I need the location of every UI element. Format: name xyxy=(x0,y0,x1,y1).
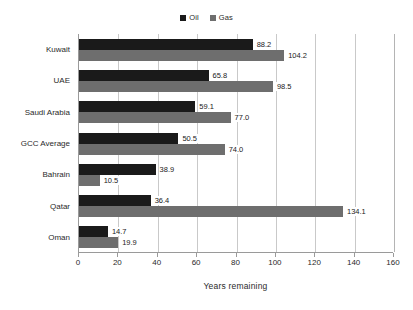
legend-item-oil[interactable]: Oil xyxy=(180,14,198,22)
bar-group: 50.574.0 xyxy=(79,133,393,155)
bar-value-label: 19.9 xyxy=(121,238,138,247)
bar-chart: OilGas KuwaitUAESaudi ArabiaGCC AverageB… xyxy=(0,0,413,310)
tick-label: 0 xyxy=(76,258,80,267)
bar-value-label: 14.7 xyxy=(111,227,128,236)
bar-group: 88.2104.2 xyxy=(79,39,393,61)
tick-mark xyxy=(393,253,394,257)
bar-gas-kuwait[interactable] xyxy=(79,50,284,61)
bar-oil-qatar[interactable] xyxy=(79,195,151,206)
tick-label: 80 xyxy=(231,258,240,267)
bar-value-label: 77.0 xyxy=(234,113,251,122)
bar-value-label: 59.1 xyxy=(198,102,215,111)
tick-label: 60 xyxy=(192,258,201,267)
bar-oil-saudi-arabia[interactable] xyxy=(79,101,195,112)
bar-oil-uae[interactable] xyxy=(79,70,209,81)
bar-gas-saudi-arabia[interactable] xyxy=(79,112,231,123)
legend-swatch-gas-icon xyxy=(210,15,216,21)
tick-label: 100 xyxy=(268,258,281,267)
x-axis-title: Years remaining xyxy=(78,281,393,291)
tick-mark xyxy=(314,253,315,257)
tick-mark xyxy=(196,253,197,257)
bar-value-label: 10.5 xyxy=(103,176,120,185)
bar-group: 65.898.5 xyxy=(79,70,393,92)
bar-value-label: 38.9 xyxy=(159,165,176,174)
bar-gas-oman[interactable] xyxy=(79,237,118,248)
bar-group: 14.719.9 xyxy=(79,226,393,248)
chart-legend: OilGas xyxy=(0,14,413,22)
bar-group: 38.910.5 xyxy=(79,164,393,186)
value-axis-ticks: 020406080100120140160 xyxy=(78,253,393,269)
bar-groups: 88.2104.265.898.559.177.050.574.038.910.… xyxy=(79,34,393,252)
category-label-gcc-average: GCC Average xyxy=(21,139,70,148)
bar-gas-qatar[interactable] xyxy=(79,206,343,217)
category-label-uae: UAE xyxy=(54,76,70,85)
bar-value-label: 88.2 xyxy=(256,40,273,49)
legend-label: Gas xyxy=(219,14,233,22)
category-label-bahrain: Bahrain xyxy=(42,170,70,179)
tick-mark xyxy=(157,253,158,257)
tick-label: 120 xyxy=(308,258,321,267)
bar-oil-bahrain[interactable] xyxy=(79,164,156,175)
category-label-kuwait: Kuwait xyxy=(46,45,70,54)
bar-oil-gcc-average[interactable] xyxy=(79,133,178,144)
category-label-qatar: Qatar xyxy=(50,202,70,211)
bar-oil-kuwait[interactable] xyxy=(79,39,253,50)
bar-gas-gcc-average[interactable] xyxy=(79,144,225,155)
gridline xyxy=(394,34,395,252)
legend-swatch-oil-icon xyxy=(180,15,186,21)
bar-value-label: 134.1 xyxy=(346,207,367,216)
category-label-saudi-arabia: Saudi Arabia xyxy=(25,108,70,117)
bar-oil-oman[interactable] xyxy=(79,226,108,237)
tick-mark xyxy=(117,253,118,257)
bar-gas-uae[interactable] xyxy=(79,81,273,92)
bar-value-label: 74.0 xyxy=(228,145,245,154)
bar-group: 59.177.0 xyxy=(79,101,393,123)
tick-mark xyxy=(236,253,237,257)
tick-mark xyxy=(78,253,79,257)
legend-item-gas[interactable]: Gas xyxy=(210,14,233,22)
plot-area: 88.2104.265.898.559.177.050.574.038.910.… xyxy=(78,34,393,253)
bar-value-label: 98.5 xyxy=(276,82,293,91)
tick-mark xyxy=(275,253,276,257)
bar-value-label: 65.8 xyxy=(212,71,229,80)
bar-value-label: 104.2 xyxy=(287,51,308,60)
legend-label: Oil xyxy=(189,14,198,22)
bar-group: 36.4134.1 xyxy=(79,195,393,217)
tick-label: 20 xyxy=(113,258,122,267)
tick-mark xyxy=(354,253,355,257)
tick-label: 40 xyxy=(152,258,161,267)
bar-value-label: 50.5 xyxy=(181,134,198,143)
bar-gas-bahrain[interactable] xyxy=(79,175,100,186)
tick-label: 160 xyxy=(386,258,399,267)
category-axis-labels: KuwaitUAESaudi ArabiaGCC AverageBahrainQ… xyxy=(0,34,74,253)
tick-label: 140 xyxy=(347,258,360,267)
category-label-oman: Oman xyxy=(48,233,70,242)
bar-value-label: 36.4 xyxy=(154,196,171,205)
